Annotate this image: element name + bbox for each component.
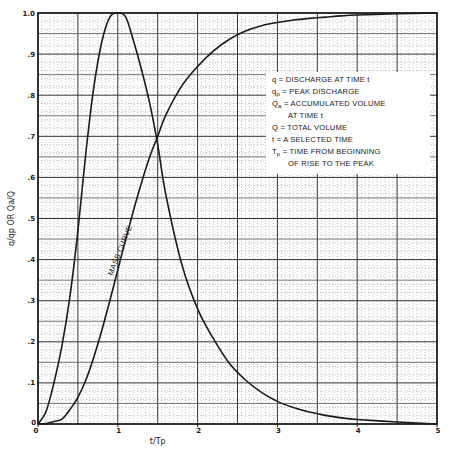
- legend-text: = ACCUMULATED VOLUME: [282, 99, 386, 108]
- legend-entry: OF RISE TO THE PEAK: [288, 159, 374, 168]
- x-axis-label: t/Tp: [150, 437, 166, 446]
- chart: 012345 0.1.2.3.4.5.6.7.8.91.0 q = DISCHA…: [0, 0, 449, 455]
- x-tick-labels: 012345: [34, 424, 441, 435]
- legend-text: = A SELECTED TIME: [274, 135, 353, 144]
- x-tick-label: 3: [276, 427, 281, 435]
- y-tick-labels: 0.1.2.3.4.5.6.7.8.91.0: [23, 10, 37, 428]
- y-axis-label: q/qp OR Qa/Q: [7, 191, 16, 246]
- legend-entry: Q = TOTAL VOLUME: [272, 123, 347, 132]
- y-tick-label: .6: [27, 174, 35, 182]
- legend-entry: qp = PEAK DISCHARGE: [272, 87, 360, 97]
- legend-text: = TOTAL VOLUME: [278, 123, 347, 132]
- legend-text: = TIME FROM BEGINNING: [280, 147, 380, 156]
- x-tick-label: 2: [196, 427, 201, 435]
- y-tick-label: .2: [27, 338, 35, 346]
- legend-entry: Tp = TIME FROM BEGINNING: [272, 147, 381, 157]
- x-tick-label: 0: [34, 427, 39, 435]
- y-tick-label: 1.0: [23, 10, 36, 18]
- y-tick-label: .7: [27, 133, 35, 141]
- y-tick-label: .1: [27, 379, 35, 387]
- legend: q = DISCHARGE AT TIME tqp = PEAK DISCHAR…: [266, 72, 430, 174]
- x-tick-label: 1: [116, 427, 121, 435]
- y-tick-label: .3: [27, 297, 35, 305]
- y-tick-label: .9: [27, 51, 35, 59]
- legend-entry: q = DISCHARGE AT TIME t: [272, 75, 370, 84]
- y-tick-label: .5: [27, 215, 35, 223]
- x-tick-label: 5: [436, 427, 441, 435]
- y-tick-label: 0: [31, 419, 36, 427]
- legend-text: = DISCHARGE AT TIME t: [276, 75, 370, 84]
- y-tick-label: .8: [27, 92, 35, 100]
- legend-entry: t = A SELECTED TIME: [272, 135, 353, 144]
- legend-entry: AT TIME t: [288, 111, 324, 120]
- legend-text: = PEAK DISCHARGE: [280, 87, 360, 96]
- y-tick-label: .4: [27, 256, 35, 264]
- x-tick-label: 4: [356, 427, 361, 435]
- legend-entry: Qa = ACCUMULATED VOLUME: [272, 99, 386, 109]
